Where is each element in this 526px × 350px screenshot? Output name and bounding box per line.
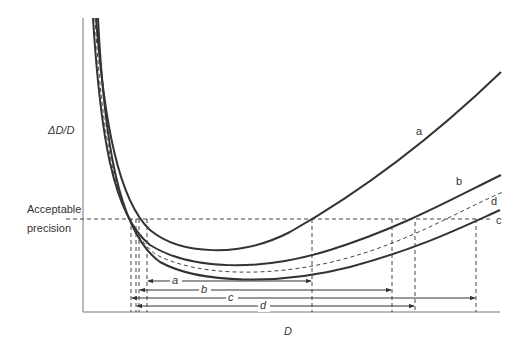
threshold-label-line1: Acceptable (27, 203, 81, 216)
curve-c (98, 18, 500, 280)
range-arrows (132, 281, 475, 306)
threshold-label-line2: precision (27, 222, 71, 235)
curve-a (96, 18, 501, 250)
curve-d-label: d (491, 195, 497, 208)
precision-chart (0, 0, 526, 350)
range-a-label: a (172, 274, 178, 287)
curve-c-label: c (496, 214, 502, 227)
range-d-label: d (260, 299, 266, 312)
curve-a-label: a (416, 125, 422, 138)
y-axis-label: ΔD/D (48, 124, 74, 137)
range-b-label: b (201, 283, 207, 296)
curve-b-label: b (456, 175, 462, 188)
x-axis-label: D (284, 325, 292, 338)
range-c-label: c (228, 291, 234, 304)
